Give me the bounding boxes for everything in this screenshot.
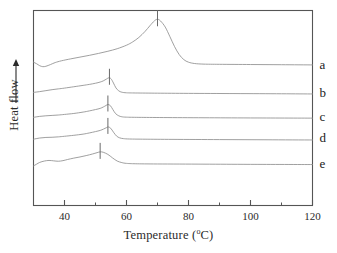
x-axis-title-suffix: C) <box>201 228 214 242</box>
curve-label-d: d <box>320 130 337 146</box>
x-tick-label: 40 <box>45 210 85 222</box>
curve-label-e: e <box>320 156 337 172</box>
curve-label-b: b <box>320 85 337 101</box>
curve-label-c: c <box>320 109 337 125</box>
y-axis-title-wrapper: Heat flow <box>4 45 24 165</box>
x-tick-label: 120 <box>293 210 333 222</box>
x-tick-label: 100 <box>231 210 271 222</box>
x-axis-title-prefix: Temperature ( <box>124 228 197 242</box>
curve-label-a: a <box>320 57 337 73</box>
x-tick-label: 60 <box>107 210 147 222</box>
y-axis-title: Heat flow <box>7 79 22 130</box>
x-axis-title: Temperature (oC) <box>0 228 337 243</box>
dsc-thermogram-figure: Heat flow Temperature (oC) 406080100120 … <box>0 0 337 253</box>
x-tick-label: 80 <box>169 210 209 222</box>
